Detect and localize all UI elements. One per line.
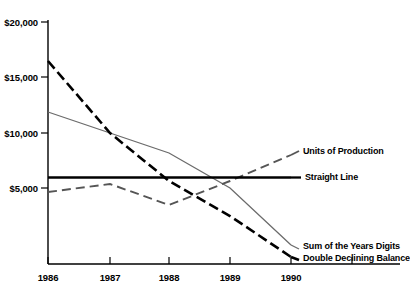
series-line-double-declining-balance — [48, 61, 291, 257]
series-label-units-of-production: Units of Production — [303, 146, 384, 156]
x-tick-label-1990: 1990 — [271, 272, 311, 283]
x-tick-label-1987: 1987 — [90, 272, 130, 283]
x-tick-label-1989: 1989 — [210, 272, 250, 283]
y-tick-label-15000: $15,000 — [0, 72, 38, 83]
series-label-straight-line: Straight Line — [305, 172, 358, 182]
y-axis-ticks — [41, 22, 48, 188]
series-line-units-of-production — [48, 155, 291, 205]
series-label-double-declining-balance: Double Declining Balance — [303, 253, 410, 263]
series-label-sum-of-years-digits: Sum of the Years Digits — [303, 241, 400, 251]
x-tick-label-1988: 1988 — [149, 272, 189, 283]
legend-leader-lines — [291, 151, 301, 260]
x-tick-label-1986: 1986 — [28, 272, 68, 283]
y-tick-label-5000: $5,000 — [0, 183, 38, 194]
y-tick-label-10000: $10,000 — [0, 128, 38, 139]
y-tick-label-20000: $20,000 — [0, 17, 38, 28]
